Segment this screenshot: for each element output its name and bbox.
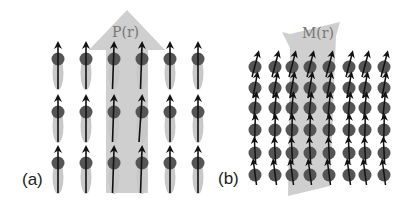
dipole (80, 149, 93, 194)
spin (378, 117, 391, 140)
spin (249, 117, 262, 140)
dipole (80, 98, 93, 143)
spin (359, 95, 372, 118)
spin (378, 75, 391, 98)
spin (343, 140, 356, 163)
dipole (192, 98, 205, 143)
spin (359, 54, 372, 77)
spin (343, 95, 356, 118)
spin (359, 75, 372, 98)
spin (269, 162, 282, 185)
spin (359, 162, 372, 185)
spin (269, 140, 282, 163)
spin (249, 75, 262, 98)
dipole (192, 149, 205, 194)
spin (343, 75, 356, 98)
dipole (52, 98, 65, 143)
spin (269, 117, 282, 140)
dipole (164, 149, 177, 194)
dipole (192, 45, 205, 90)
spin (359, 117, 372, 140)
dipole (164, 98, 177, 143)
spin (269, 54, 282, 77)
dipole (80, 45, 93, 90)
spin (249, 162, 262, 185)
dipole (164, 45, 177, 90)
spin (378, 95, 391, 118)
spin (378, 54, 391, 77)
panel-a-label: (a) (22, 170, 43, 189)
panel-b: M(r) (b) (218, 22, 391, 196)
figure-canvas: P(r) (a) M(r) (b) (0, 0, 414, 204)
spin (343, 54, 356, 77)
panel-a: P(r) (a) (22, 10, 205, 194)
polarization-label: P(r) (112, 24, 139, 40)
spin (343, 162, 356, 185)
spin (269, 75, 282, 98)
spin (269, 95, 282, 118)
spin (249, 140, 262, 163)
magnetization-label: M(r) (302, 25, 334, 41)
spin (378, 162, 391, 185)
spin (249, 95, 262, 118)
spin (343, 117, 356, 140)
spin (378, 140, 391, 163)
dipole (52, 45, 65, 90)
dipole (52, 149, 65, 194)
panel-b-label: (b) (218, 169, 239, 188)
spin (249, 54, 262, 77)
spin (359, 140, 372, 163)
